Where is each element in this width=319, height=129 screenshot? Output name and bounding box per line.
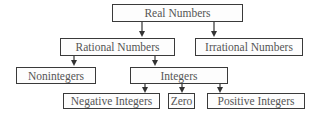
node-nonintegers: Nonintegers	[16, 67, 96, 84]
node-zero: Zero	[168, 93, 195, 109]
node-positive-integers: Positive Integers	[207, 93, 305, 109]
node-irrational-numbers: Irrational Numbers	[195, 38, 303, 56]
node-negative-integers: Negative Integers	[63, 93, 160, 109]
node-rational-numbers: Rational Numbers	[60, 38, 175, 56]
node-real-numbers: Real Numbers	[112, 4, 243, 22]
node-integers: Integers	[130, 67, 228, 84]
